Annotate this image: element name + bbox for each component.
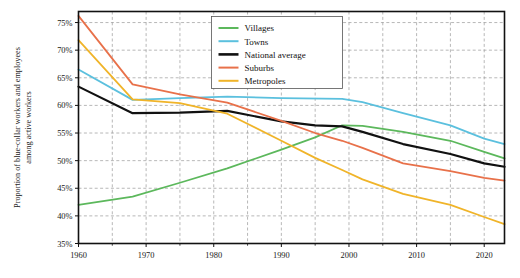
chart-legend: VillagesTownsNational averageSuburbsMetr… [212,17,343,89]
y-tick-label: 75% [57,19,72,28]
legend-label-metropoles: Metropoles [245,76,286,86]
y-tick-label: 55% [57,129,72,138]
y-tick-label: 65% [57,74,72,83]
y-axis-title-line: Proportion of blue-collar workers and em… [13,47,22,208]
x-tick-label: 1970 [138,251,155,260]
x-tick-label: 1980 [205,251,222,260]
y-tick-label: 35% [57,240,72,249]
legend-label-towns: Towns [245,37,269,47]
chart-container: 35%40%45%50%55%60%65%70%75%1960197019801… [0,0,520,278]
line-chart: 35%40%45%50%55%60%65%70%75%1960197019801… [0,0,520,278]
x-tick-label: 1990 [273,251,290,260]
legend-label-suburbs: Suburbs [245,63,275,73]
y-tick-label: 50% [57,157,72,166]
y-tick-label: 40% [57,212,72,221]
y-tick-label: 70% [57,46,72,55]
legend-label-national-average: National average [245,50,306,60]
x-tick-label: 2020 [476,251,493,260]
legend-label-villages: Villages [245,23,275,33]
y-tick-label: 60% [57,101,72,110]
x-tick-label: 2000 [341,251,358,260]
x-tick-label: 1960 [70,251,87,260]
y-tick-label: 45% [57,184,72,193]
series-line-villages [79,125,505,205]
y-axis-title: Proportion of blue-collar workers and em… [13,47,33,208]
x-tick-label: 2010 [408,251,425,260]
y-axis-title-line: among active workers [24,91,33,163]
